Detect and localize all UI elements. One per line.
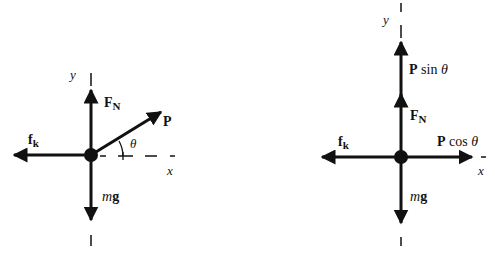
right-weight-label: mg [410, 190, 427, 204]
left-y-axis-label: y [70, 68, 76, 81]
left-x-axis-label: x [167, 164, 173, 177]
p-sin-bold: P [409, 62, 418, 77]
left-normal-force-label: FN [104, 96, 121, 112]
p-cos-bold: P [437, 134, 446, 149]
right-diagram [322, 3, 486, 246]
free-body-diagrams [0, 0, 495, 253]
sin-text: sin [418, 62, 441, 77]
angle-label: θ [130, 137, 136, 150]
fn-main: F [104, 95, 113, 110]
mass-symbol: m [102, 189, 112, 204]
mass-symbol: m [410, 189, 420, 204]
object-point [394, 150, 408, 164]
p-cos-label: P cos θ [437, 135, 478, 149]
fn-sub: N [113, 100, 121, 112]
left-diagram [14, 73, 175, 246]
right-y-axis-label: y [383, 13, 389, 26]
right-x-axis-label: x [478, 164, 484, 177]
fk-sub: k [33, 137, 39, 149]
fn-sub: N [419, 113, 427, 125]
fk-sub: k [343, 139, 349, 151]
gravity-symbol: g [420, 189, 427, 204]
left-weight-label: mg [102, 190, 119, 204]
p-sin-label: P sin θ [409, 63, 448, 77]
right-friction-label: fk [338, 135, 349, 151]
applied-force-arrow [91, 112, 161, 155]
theta: θ [471, 134, 478, 149]
cos-text: cos [446, 134, 472, 149]
right-normal-force-label: FN [410, 109, 427, 125]
object-point [84, 148, 98, 162]
left-applied-force-label: P [163, 115, 172, 129]
fn-main: F [410, 108, 419, 123]
gravity-symbol: g [112, 189, 119, 204]
theta: θ [441, 62, 448, 77]
left-friction-label: fk [28, 133, 39, 149]
